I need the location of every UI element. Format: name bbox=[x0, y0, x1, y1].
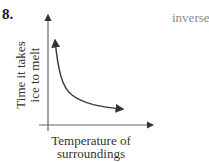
x-axis-label-line2: surroundings bbox=[51, 147, 131, 160]
inverse-curve bbox=[55, 40, 123, 109]
y-axis-label-line1: Time it takes bbox=[14, 15, 28, 135]
x-axis-label: Temperature of surroundings bbox=[51, 134, 131, 160]
y-axis-label: Time it takes ice to melt bbox=[14, 15, 42, 135]
y-axis-label-line2: ice to melt bbox=[28, 15, 42, 135]
